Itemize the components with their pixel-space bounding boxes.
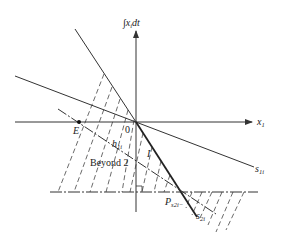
y-axis-label: ∫xidt [122,17,140,29]
origin-label: 0 [125,124,130,135]
p-label: Ps2i− [164,196,183,208]
right-angle-marker [136,186,142,192]
x-axis-label: x1 [256,116,265,128]
s2-line-upper [75,29,136,122]
h-label: h1i [112,138,122,150]
point-e-label: E [72,125,79,136]
region-beyond-label: Beyond 2 [90,157,129,168]
s1-label: s1i [255,163,264,175]
phase-plane-diagram: ∫xidt x1 0 E h1i I Beyond 2 s1i s2i Ps2i… [0,0,283,247]
region-i-label: I [146,148,151,159]
s2-label: s2i [196,210,205,222]
point-e [77,120,81,124]
